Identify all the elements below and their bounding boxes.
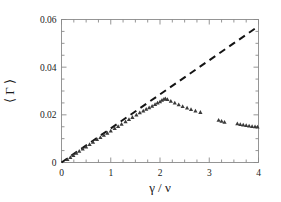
y-axis-tick-label: 0.04 bbox=[40, 63, 57, 73]
linear-reference-line bbox=[62, 26, 259, 162]
y-axis-title: ⟨ Γ ⟩ bbox=[2, 79, 17, 103]
x-axis-tick-label: 2 bbox=[158, 168, 163, 178]
chart-canvas: 0123400.020.040.06γ / ν⟨ Γ ⟩ bbox=[0, 0, 281, 202]
data-point-marker bbox=[130, 115, 134, 119]
data-point-marker bbox=[127, 117, 131, 121]
x-axis-tick-label: 1 bbox=[108, 168, 113, 178]
data-point-marker bbox=[189, 107, 193, 111]
y-axis-tick-label: 0 bbox=[52, 158, 57, 168]
y-axis-tick-label: 0.06 bbox=[40, 15, 57, 25]
data-point-marker bbox=[193, 109, 197, 113]
data-point-marker bbox=[185, 106, 189, 110]
data-point-marker bbox=[217, 118, 221, 122]
x-axis-title: γ / ν bbox=[148, 180, 171, 195]
data-point-marker bbox=[169, 99, 173, 103]
x-axis-tick-label: 4 bbox=[256, 168, 261, 178]
data-point-marker bbox=[198, 110, 202, 114]
data-point-marker bbox=[173, 101, 177, 105]
scatter-series bbox=[65, 97, 259, 162]
data-point-marker bbox=[134, 113, 138, 117]
chart-figure: 0123400.020.040.06γ / ν⟨ Γ ⟩ bbox=[0, 0, 281, 202]
data-point-marker bbox=[235, 122, 239, 126]
data-point-marker bbox=[138, 111, 142, 115]
data-point-marker bbox=[77, 149, 81, 153]
data-point-marker bbox=[87, 142, 91, 146]
x-axis-tick-label: 3 bbox=[207, 168, 212, 178]
data-point-marker bbox=[181, 104, 185, 108]
data-point-marker bbox=[177, 102, 181, 106]
x-axis-tick-label: 0 bbox=[59, 168, 64, 178]
y-axis-tick-label: 0.02 bbox=[40, 110, 57, 120]
data-point-marker bbox=[119, 122, 123, 126]
data-point-marker bbox=[109, 129, 113, 133]
